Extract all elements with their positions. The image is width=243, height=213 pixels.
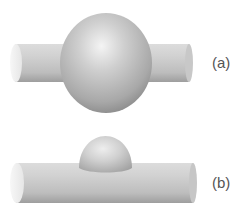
- panel-label-b: (b): [212, 175, 230, 190]
- dome-b: [79, 136, 132, 173]
- cylinder-left-a: [10, 44, 65, 82]
- panel-b-drawing: [10, 136, 197, 203]
- sphere-a: [60, 13, 152, 113]
- cylinder-right-a: [145, 44, 193, 82]
- panel-label-a: (a): [212, 55, 230, 70]
- panel-a-drawing: [10, 13, 193, 113]
- figure-canvas: [0, 0, 243, 213]
